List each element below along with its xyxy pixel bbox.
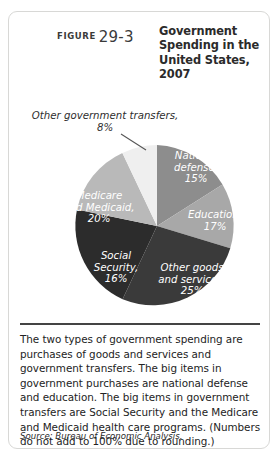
- figure-label-word: FIGURE: [57, 31, 96, 41]
- caption-source: Source: Bureau of Economic Analysis.: [20, 431, 264, 442]
- figure-card: FIGURE29-3 Government Spending in the Un…: [8, 11, 270, 449]
- figure-number-value: 29-3: [99, 28, 134, 46]
- figure-title: Government Spending in the United States…: [159, 24, 267, 82]
- leader-line: [121, 134, 146, 150]
- figure-header: FIGURE29-3 Government Spending in the Un…: [9, 21, 270, 93]
- pie-chart-svg: [9, 92, 270, 320]
- pie-slices: [75, 145, 233, 305]
- caption-divider: [20, 323, 260, 325]
- figure-number: FIGURE29-3: [57, 27, 134, 46]
- pie-chart: Other government transfers, 8% National …: [9, 92, 270, 320]
